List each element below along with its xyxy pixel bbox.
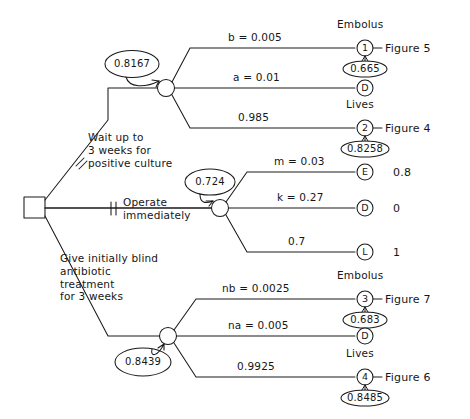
node-glyph-2: 2 [357,122,373,134]
node-glyph-3: 3 [357,293,373,305]
subvalue-3: 0.683 [343,314,387,326]
prob-label-operate-l: 0.7 [288,235,305,248]
subvalue-2: 0.8258 [341,143,389,155]
outcome-name-antibiotic-lives: Lives [346,347,374,360]
strategy-label-operate: Operate immediately [123,196,191,222]
root-decision-square[interactable] [24,197,45,218]
node-glyph-4: 4 [357,371,373,383]
payoff-l: 1 [393,246,400,259]
prob-label-wait-lives: 0.985 [238,111,269,124]
figure-ref-2[interactable]: Figure 4 [385,122,431,135]
prob-label-wait-d: a = 0.01 [233,71,280,84]
strategy-label-wait: Wait up to 3 weeks for positive culture [88,131,172,169]
payoff-operate-d: 0 [393,202,400,215]
payoff-e: 0.8 [393,166,411,179]
outcome-name-wait-embolus: Embolus [337,18,383,31]
prob-label-antibiotic-na: na = 0.005 [228,319,289,332]
outcome-name-antibiotic-embolus: Embolus [337,269,383,282]
ev-value-antibiotic: 0.8439 [115,356,171,368]
node-glyph-e: E [357,166,373,178]
ev-pointer-wait [126,77,159,86]
ev-value-operate: 0.724 [185,176,235,188]
prob-label-antibiotic-nb: nb = 0.0025 [222,282,290,295]
subvalue-1: 0.665 [343,63,387,75]
node-glyph-operate-d: D [357,202,373,214]
reject-mark-wait [76,158,87,169]
node-glyph-1: 1 [357,42,373,54]
node-glyph-antibiotic-d: D [357,330,373,342]
figure-ref-4[interactable]: Figure 6 [385,371,431,384]
node-glyph-l: L [357,246,373,258]
strategy-label-antibiotic: Give initially blind antibiotic treatmen… [60,252,158,303]
prob-label-antibiotic-lives: 0.9925 [237,360,275,373]
figure-ref-3[interactable]: Figure 7 [385,293,431,306]
prob-label-operate-k: k = 0.27 [277,191,324,204]
outcome-name-wait-lives: Lives [346,98,374,111]
ev-value-wait: 0.8167 [105,58,159,70]
prob-label-operate-m: m = 0.03 [274,155,325,168]
subvalue-4: 0.8485 [341,392,389,404]
prob-label-wait-embolus: b = 0.005 [228,31,282,44]
figure-ref-1[interactable]: Figure 5 [385,42,431,55]
node-glyph-wait-d: D [357,82,373,94]
